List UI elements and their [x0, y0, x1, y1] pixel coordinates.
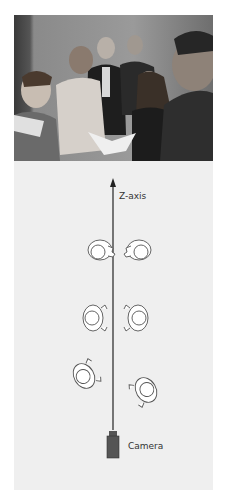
figure-top-left — [88, 240, 115, 260]
figure-middle-left — [83, 305, 107, 331]
camera-icon — [107, 431, 119, 458]
figure-bottom-left — [69, 358, 103, 393]
camera-label: Camera — [128, 441, 163, 451]
arrow-head-icon — [110, 178, 116, 187]
z-axis-label: Z-axis — [119, 191, 146, 201]
figure-top-right — [124, 240, 151, 260]
figure-middle-right — [124, 305, 148, 331]
figure-bottom-right — [127, 374, 161, 409]
z-axis-diagram — [0, 0, 226, 504]
figures — [69, 240, 161, 408]
